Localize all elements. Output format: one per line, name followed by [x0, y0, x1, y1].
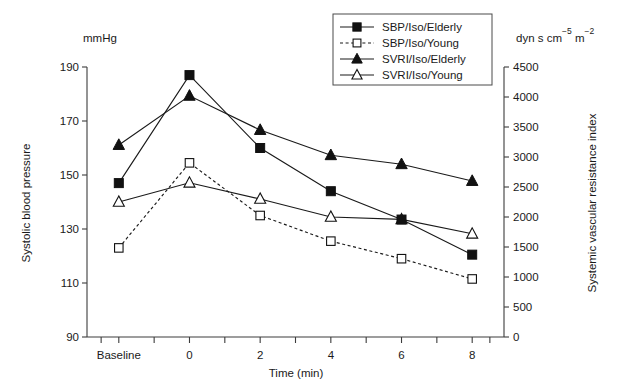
series-svri-iso-elderly: [113, 90, 478, 186]
left-axis-title: Systolic blood pressure: [20, 144, 32, 263]
right-axis-title: Systemic vascular resistance index: [586, 113, 598, 292]
x-tick-label: Baseline: [97, 349, 141, 361]
y-tick-label: 150: [60, 169, 79, 181]
data-point-marker: [113, 139, 124, 150]
data-series: [113, 71, 478, 284]
x-tick-label: 4: [328, 349, 335, 361]
data-point-marker: [397, 215, 406, 224]
y-tick-label: 170: [60, 115, 79, 127]
y2-tick-label: 4000: [513, 91, 539, 103]
x-tick-label: 2: [257, 349, 263, 361]
chart-legend[interactable]: SBP/Iso/ElderlySBP/Iso/YoungSVRI/Iso/Eld…: [333, 14, 492, 85]
y2-tick-label: 3000: [513, 151, 539, 163]
data-point-marker: [468, 275, 477, 284]
data-point-marker: [254, 124, 265, 135]
data-point-marker: [468, 250, 477, 259]
series-sbp-iso-young: [115, 159, 477, 284]
y2-tick-label: 500: [513, 301, 532, 313]
y2-tick-label: 0: [513, 331, 519, 343]
legend-label: SBP/Iso/Elderly: [382, 21, 462, 33]
legend-label: SBP/Iso/Young: [382, 37, 459, 49]
data-point-marker: [184, 90, 195, 101]
x-tick-label: 6: [398, 349, 404, 361]
data-point-marker: [185, 71, 194, 80]
data-point-marker: [115, 244, 124, 253]
y2-tick-label: 2500: [513, 181, 539, 193]
series-line: [119, 163, 472, 279]
data-point-marker: [256, 144, 265, 153]
y2-tick-label: 1500: [513, 241, 539, 253]
data-point-marker: [353, 39, 361, 47]
x-tick-label: 8: [469, 349, 475, 361]
y-tick-label: 190: [60, 61, 79, 73]
legend-item-sbp-iso-elderly[interactable]: SBP/Iso/Elderly: [340, 21, 462, 33]
y2-tick-label: 2000: [513, 211, 539, 223]
data-point-marker: [114, 179, 123, 188]
plot-area: 9011013015017019005001000150020002500300…: [20, 14, 598, 379]
series-sbp-iso-elderly: [114, 71, 476, 260]
legend-label: SVRI/Iso/Elderly: [382, 53, 466, 65]
data-point-marker: [353, 23, 361, 31]
tick-labels: 9011013015017019005001000150020002500300…: [60, 61, 539, 361]
chart-canvas: 9011013015017019005001000150020002500300…: [0, 0, 624, 388]
data-point-marker: [184, 177, 195, 187]
left-axis-unit: mmHg: [83, 32, 117, 44]
series-line: [119, 96, 472, 181]
legend-label: SVRI/Iso/Young: [382, 69, 463, 81]
chart-figure: 9011013015017019005001000150020002500300…: [0, 0, 624, 388]
series-line: [119, 183, 472, 234]
y2-tick-label: 4500: [513, 61, 539, 73]
legend-item-sbp-iso-young[interactable]: SBP/Iso/Young: [340, 37, 459, 49]
data-point-marker: [256, 211, 265, 220]
data-point-marker: [326, 187, 335, 196]
data-point-marker: [185, 159, 194, 168]
y-tick-label: 90: [66, 331, 79, 343]
data-point-marker: [397, 254, 406, 263]
x-tick-label: 0: [186, 349, 192, 361]
y-tick-label: 110: [61, 277, 79, 289]
y2-tick-label: 1000: [513, 271, 539, 283]
data-point-marker: [327, 237, 336, 246]
x-axis-title: Time (min): [269, 367, 324, 379]
y-tick-label: 130: [60, 223, 79, 235]
right-axis-unit: dyn s cm−5 m−2: [516, 26, 594, 45]
axes: [82, 67, 509, 343]
y2-tick-label: 3500: [513, 121, 539, 133]
